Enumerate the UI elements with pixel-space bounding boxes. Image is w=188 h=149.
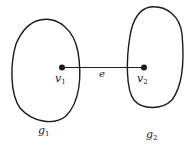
vertex-v1-label: v1 <box>55 72 66 86</box>
graph-diagram: v1 v2 e g1 g2 <box>0 0 188 149</box>
component-g1-outline <box>12 19 80 121</box>
component-g2-label: g2 <box>146 128 158 142</box>
component-g2-outline <box>127 7 183 108</box>
vertex-v2-label: v2 <box>137 72 148 86</box>
edge-e-label: e <box>99 68 105 79</box>
vertex-v1 <box>59 65 65 71</box>
component-g1-label: g1 <box>38 124 50 138</box>
vertex-v2 <box>141 65 147 71</box>
